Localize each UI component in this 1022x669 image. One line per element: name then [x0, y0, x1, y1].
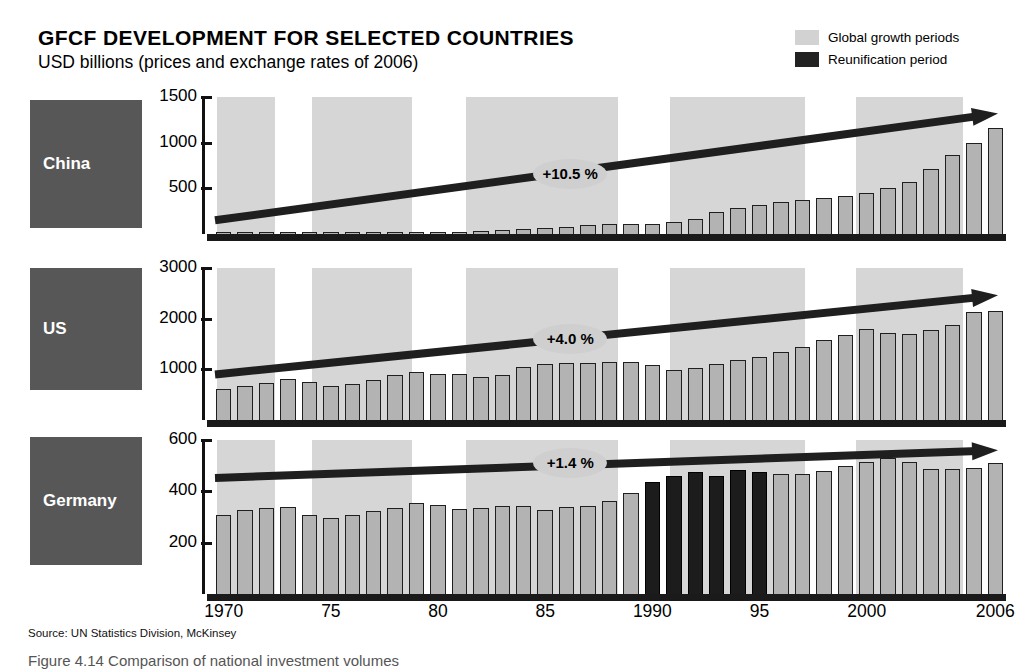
bar-germany-1990: [645, 482, 660, 595]
bar-germany-1982: [473, 508, 488, 595]
y-tick-china-1500: [201, 96, 212, 99]
bar-china-1995: [752, 205, 767, 235]
y-tick-label-germany-600: 600: [77, 429, 197, 449]
bar-germany-1975: [323, 518, 338, 595]
x-tick-label-95: 95: [750, 601, 769, 622]
bar-germany-1991: [666, 476, 681, 595]
chart-panel-germany: [213, 440, 1006, 600]
y-axis-china: [202, 97, 214, 234]
bar-germany-2000: [859, 462, 874, 595]
y-tick-label-china-1500: 1500: [77, 86, 197, 106]
bar-us-1987: [580, 363, 595, 421]
bar-germany-1988: [602, 501, 617, 595]
bar-us-1993: [709, 364, 724, 421]
bar-china-1999: [838, 196, 853, 235]
y-tick-germany-200: [201, 542, 212, 545]
bar-us-1985: [537, 364, 552, 421]
bar-series-germany: [213, 440, 1006, 600]
x-tick-label-75: 75: [321, 601, 340, 622]
legend-swatch-reunification-icon: [795, 52, 819, 67]
bar-germany-1996: [773, 474, 788, 595]
legend-item-growth: Global growth periods: [795, 28, 959, 47]
bar-germany-1987: [580, 506, 595, 595]
bar-us-1976: [345, 384, 360, 421]
y-axis-germany: [202, 440, 214, 594]
bar-series-china: [213, 97, 1006, 240]
x-tick-label-2000: 2000: [847, 601, 886, 622]
bar-germany-1980: [430, 505, 445, 595]
bar-germany-1983: [495, 506, 510, 595]
bar-germany-1979: [409, 503, 424, 595]
x-tick-label-1990: 1990: [633, 601, 672, 622]
bar-us-1974: [302, 382, 317, 421]
y-axis-us: [202, 268, 214, 420]
country-plate-label-china: China: [30, 154, 90, 174]
bar-us-1995: [752, 357, 767, 421]
bar-us-1997: [795, 347, 810, 421]
bar-china-1997: [795, 200, 810, 235]
bar-us-1999: [838, 335, 853, 421]
country-plate-label-us: US: [30, 319, 67, 339]
country-plate-china: China: [30, 100, 142, 228]
bar-china-1998: [816, 198, 831, 235]
bar-germany-1986: [559, 507, 574, 595]
legend-label-reunification: Reunification period: [828, 52, 947, 67]
bar-us-2006: [988, 311, 1003, 421]
y-tick-us-1000: [201, 368, 212, 371]
cagr-bubble-china: +10.5 %: [533, 159, 607, 189]
bar-china-1992: [688, 219, 703, 235]
bar-china-1996: [773, 202, 788, 235]
axis-baseline: [207, 420, 1006, 427]
bar-us-1992: [688, 368, 703, 421]
bar-germany-1997: [795, 474, 810, 595]
bar-germany-1971: [237, 510, 252, 595]
bar-germany-1989: [623, 493, 638, 595]
bar-germany-1984: [516, 506, 531, 595]
y-tick-us-3000: [201, 267, 212, 270]
bar-germany-2003: [923, 469, 938, 595]
bar-germany-2006: [988, 463, 1003, 595]
legend-label-growth: Global growth periods: [828, 30, 959, 45]
bar-china-2002: [902, 182, 917, 235]
bar-us-1986: [559, 363, 574, 421]
chart-figure: GFCF DEVELOPMENT FOR SELECTED COUNTRIES …: [0, 0, 1022, 669]
bar-us-1989: [623, 362, 638, 421]
legend: Global growth periods Reunification peri…: [795, 28, 959, 72]
y-tick-us-2000: [201, 318, 212, 321]
bar-us-1983: [495, 375, 510, 421]
x-tick-label-2006: 2006: [976, 601, 1015, 622]
bar-us-1996: [773, 352, 788, 421]
legend-item-reunification: Reunification period: [795, 50, 959, 69]
cagr-bubble-germany: +1.4 %: [533, 448, 607, 478]
bar-us-2004: [945, 325, 960, 421]
y-tick-label-us-2000: 2000: [77, 308, 197, 328]
bar-series-us: [213, 268, 1006, 426]
chart-panel-us: [213, 268, 1006, 426]
y-tick-china-500: [201, 187, 212, 190]
bar-china-2001: [880, 188, 895, 235]
bar-us-2001: [880, 333, 895, 421]
legend-swatch-growth-icon: [795, 30, 819, 45]
bar-us-1978: [387, 375, 402, 421]
page-subtitle: USD billions (prices and exchange rates …: [38, 52, 418, 73]
bar-germany-1992: [688, 472, 703, 595]
bar-china-2004: [945, 155, 960, 235]
bar-germany-2005: [966, 468, 981, 595]
x-tick-label-85: 85: [535, 601, 554, 622]
y-tick-label-us-1000: 1000: [77, 358, 197, 378]
bar-us-1977: [366, 380, 381, 421]
y-tick-label-germany-400: 400: [77, 480, 197, 500]
chart-panel-china: [213, 97, 1006, 240]
y-tick-germany-600: [201, 439, 212, 442]
bar-china-2006: [988, 128, 1003, 235]
bar-us-1972: [259, 383, 274, 422]
bar-germany-1994: [730, 470, 745, 595]
bar-us-2002: [902, 334, 917, 421]
bar-germany-1974: [302, 515, 317, 595]
bar-germany-1977: [366, 511, 381, 595]
bar-germany-1972: [259, 508, 274, 595]
cagr-bubble-us: +4.0 %: [533, 324, 607, 354]
bar-china-2000: [859, 193, 874, 235]
y-tick-label-us-3000: 3000: [77, 257, 197, 277]
bar-us-1988: [602, 362, 617, 421]
